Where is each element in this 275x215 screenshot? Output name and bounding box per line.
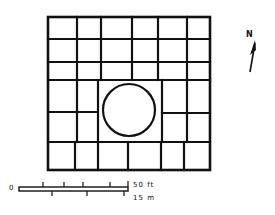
scale-metric-label: 15 m — [133, 195, 155, 202]
grid-plan — [48, 17, 210, 170]
scale-imperial-label: 50 ft — [133, 182, 154, 189]
scale-zero-label: 0 — [9, 185, 14, 192]
north-arrow-icon — [250, 40, 256, 72]
central-circle — [103, 84, 155, 136]
north-label: N — [246, 31, 254, 39]
scale-bar — [19, 181, 128, 196]
